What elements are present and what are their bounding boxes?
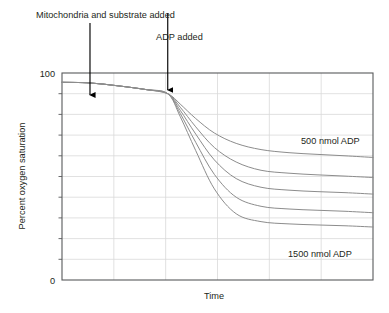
chart-svg: 500 nmol ADP 1500 nmol ADP 100 0 Percent… [0, 0, 389, 313]
oxygen-saturation-chart: 500 nmol ADP 1500 nmol ADP 100 0 Percent… [0, 0, 389, 313]
annotation-label-adp: ADP added [156, 32, 203, 42]
x-axis-title: Time [204, 291, 224, 301]
annotation-label-mitochondria: Mitochondria and substrate added [36, 10, 175, 20]
y-axis-title: Percent oxygen saturation [17, 123, 27, 230]
series-label-1500: 1500 nmol ADP [288, 249, 352, 259]
y-tick-label-100: 100 [40, 69, 55, 79]
y-tick-label-0: 0 [50, 276, 55, 286]
series-label-500: 500 nmol ADP [301, 136, 360, 146]
